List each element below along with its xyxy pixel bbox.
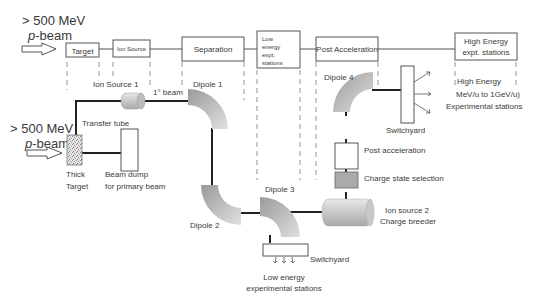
- stage-high-energy-stations: High Energy expt. stations: [455, 33, 517, 60]
- thick-target: [67, 135, 82, 165]
- switchyard-low: [263, 244, 308, 263]
- dipole-2-label: Dipole 2: [190, 221, 220, 230]
- ion-source-1-label: Ion Source 1: [93, 80, 139, 89]
- ion-source-2-label: Ion source 2: [385, 206, 430, 215]
- dipole-4-label: Dipole 4: [324, 73, 354, 82]
- charge-state-selection-label: Charge state selection: [364, 174, 444, 183]
- stage-label: Post Acceleration: [316, 45, 378, 54]
- stage-label: Separation: [194, 45, 233, 54]
- beam-dump: [121, 129, 138, 171]
- stage-label: energy: [262, 44, 280, 50]
- post-acceleration-label: Post acceleration: [364, 146, 425, 155]
- thick-target-label: Target: [66, 182, 89, 191]
- switchyard-high-label: Switchyard: [386, 126, 425, 135]
- stage-label: High Energy: [464, 37, 508, 46]
- facility-diagram: > 500 MeV p-beam Target Ion Source Separ…: [0, 0, 549, 304]
- lower-beam-energy: > 500 MeV: [10, 121, 74, 136]
- high-energy-stations-label: Experimental stations: [446, 102, 522, 111]
- thick-target-label: Thick: [66, 170, 86, 179]
- high-energy-stations-label: High Energy: [457, 77, 501, 86]
- top-beam-energy: > 500 MeV: [22, 13, 86, 28]
- transfer-tube-label: Transfer tube: [82, 119, 130, 128]
- dipole-3-label: Dipole 3: [265, 185, 295, 194]
- stage-separation: Separation: [182, 37, 244, 61]
- stage-label: stations: [262, 60, 283, 66]
- dipole-2: [201, 185, 241, 225]
- stage-label: Target: [71, 47, 94, 56]
- post-acceleration: [335, 143, 358, 169]
- stage-label: expt.: [262, 52, 275, 58]
- stage-label: expt. stations: [462, 48, 509, 57]
- beam-dump-label: for primary beam: [105, 182, 166, 191]
- stage-ion-source: Ion Source: [113, 40, 150, 57]
- primary-beam-label: 1° beam: [153, 88, 183, 97]
- high-energy-stations-label: MeV/u to 1GeV/u): [456, 90, 520, 99]
- stage-post-acceleration: Post Acceleration: [316, 37, 378, 61]
- switchyard-high: [401, 66, 431, 123]
- dipole-1-label: Dipole 1: [193, 80, 223, 89]
- charge-breeder-label: Charge breeder: [380, 217, 436, 226]
- stage-label: Ion Source: [117, 46, 147, 52]
- stage-low-energy-stations: Low energy expt. stations: [257, 31, 300, 68]
- charge-state-selection: [335, 172, 358, 188]
- beam-dump-label: Beam dump: [105, 170, 149, 179]
- ion-source-2-charge-breeder: [322, 199, 374, 226]
- ion-source-1: [121, 93, 145, 109]
- stage-label: Low: [262, 36, 274, 42]
- switchyard-low-label: Switchyard: [310, 255, 349, 264]
- dipole-1: [188, 89, 228, 129]
- stage-target: Target: [66, 43, 99, 57]
- top-beam-arrow: [22, 43, 56, 55]
- top-beam-label: p-beam: [27, 28, 72, 43]
- low-energy-stations-label: Low energy: [263, 273, 304, 282]
- low-energy-stations-label: experimental stations: [246, 284, 322, 293]
- dipole-3: [260, 197, 300, 237]
